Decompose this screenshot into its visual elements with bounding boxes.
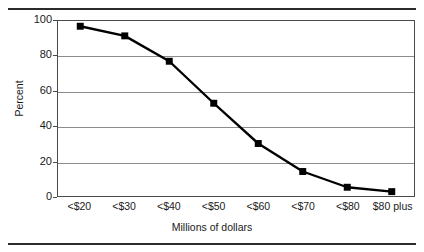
top-divider-rule: [8, 8, 416, 10]
data-point-marker-5: [299, 168, 306, 175]
y-tick-label-60: 60: [10, 85, 52, 96]
data-point-marker-4: [255, 140, 262, 147]
y-tick-mark-0: [53, 197, 57, 198]
x-tick-label-6: <$80: [336, 201, 360, 212]
y-tick-label-80: 80: [10, 49, 52, 60]
x-tick-label-3: <$50: [202, 201, 226, 212]
y-tick-label-20: 20: [10, 156, 52, 167]
x-tick-label-0: <$20: [68, 201, 92, 212]
data-point-marker-1: [121, 32, 128, 39]
series-polyline: [80, 26, 392, 191]
data-point-marker-2: [166, 58, 173, 65]
x-axis-label: Millions of dollars: [0, 221, 424, 233]
y-tick-label-100: 100: [10, 14, 52, 25]
data-point-marker-0: [77, 23, 84, 30]
data-point-marker-7: [388, 188, 395, 195]
x-tick-label-4: <$60: [247, 201, 271, 212]
y-tick-label-0: 0: [10, 191, 52, 202]
data-point-marker-6: [344, 184, 351, 191]
plot-area: [57, 20, 415, 197]
data-point-marker-3: [210, 100, 217, 107]
bottom-divider-rule: [8, 243, 416, 245]
x-tick-label-1: <$30: [112, 201, 136, 212]
series-line-percent: [58, 21, 414, 196]
y-tick-label-40: 40: [10, 120, 52, 131]
chart-figure: Percent 020406080100 <$20<$30<$40<$50<$6…: [0, 0, 424, 252]
x-tick-label-7: $80 plus: [373, 201, 413, 212]
x-tick-label-5: <$70: [291, 201, 315, 212]
x-tick-label-2: <$40: [157, 201, 181, 212]
